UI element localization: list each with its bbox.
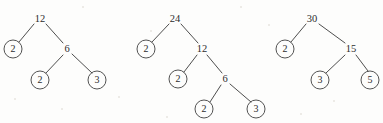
composite-factor-node: 6 [222,73,227,84]
prime-factor-node: 2 [31,71,49,89]
prime-factor-node: 2 [169,70,187,88]
node-value-label: 3 [318,74,323,85]
node-value-label: 2 [144,43,149,54]
prime-factor-node: 5 [361,71,379,89]
composite-factor-node: 15 [346,43,357,54]
tree-edge [19,24,34,42]
tree-edge [184,55,197,72]
tree-edge [230,84,251,102]
composite-factor-node: 24 [170,13,181,24]
tree-edge [210,85,221,102]
node-value-label: 2 [202,103,207,114]
node-value-label: 2 [38,74,43,85]
prime-factor-node: 2 [195,100,213,118]
node-value-label: 2 [11,43,16,54]
node-value-label: 3 [254,103,259,114]
tree-edge [356,55,368,71]
prime-factor-node: 3 [88,71,106,89]
tree-edge [72,54,92,73]
factor-trees-figure: 1226232421226233021535 [0,0,383,123]
node-value-label: 3 [95,74,100,85]
prime-factor-node: 2 [137,40,155,58]
composite-factor-node: 12 [35,13,46,24]
composite-factor-node: 30 [307,13,318,24]
node-value-label: 5 [368,74,373,85]
node-value-label: 6 [222,73,227,84]
composite-factor-node: 6 [64,43,69,54]
factor-trees-canvas: 1226232421226233021535 [0,0,383,123]
prime-factor-node: 2 [4,40,22,58]
factor-tree-24: 242122623 [137,13,265,118]
tree-edge [326,55,345,73]
node-value-label: 30 [307,13,318,24]
tree-edge [207,55,222,73]
composite-factor-node: 12 [197,43,208,54]
tree-edge [291,24,306,42]
factor-tree-12: 122623 [4,13,106,89]
node-value-label: 12 [35,13,46,24]
tree-edge [46,24,63,43]
tree-edge [319,24,345,43]
tree-edge [181,24,198,43]
node-value-label: 2 [176,73,181,84]
factor-tree-30: 3021535 [276,13,379,89]
tree-edge [46,55,63,73]
prime-factor-node: 3 [311,71,329,89]
node-value-label: 15 [346,43,357,54]
prime-factor-node: 3 [247,100,265,118]
tree-edge [152,24,169,42]
node-value-label: 24 [170,13,181,24]
node-value-label: 6 [64,43,69,54]
node-value-label: 12 [197,43,208,54]
node-value-label: 2 [283,43,288,54]
prime-factor-node: 2 [276,40,294,58]
